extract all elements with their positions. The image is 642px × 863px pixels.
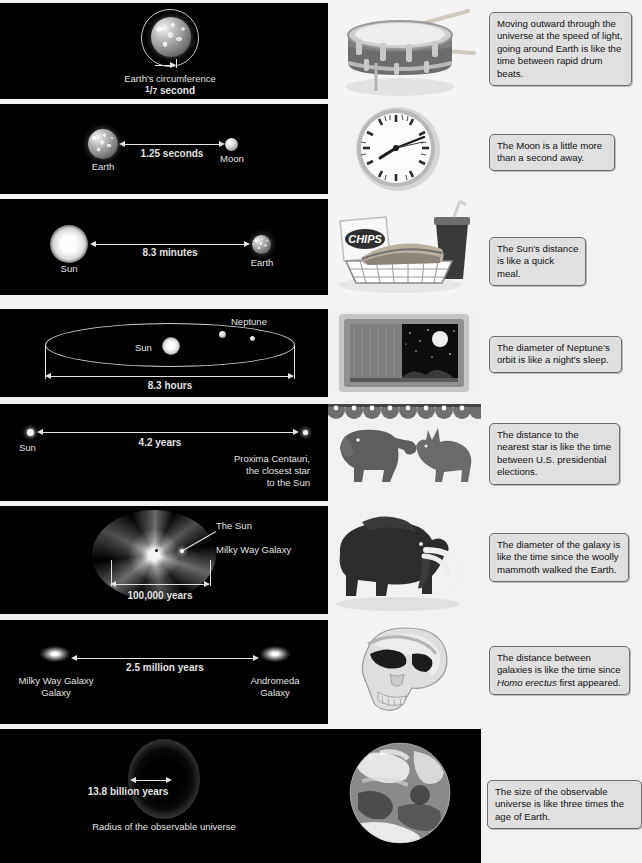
galaxy-diameter-arrow-head-left (110, 581, 116, 587)
row-milky-way-diameter: The Sun Milky Way Galaxy 100,000 years T… (0, 506, 642, 614)
universe-radius-measure: 13.8 billion years (58, 786, 198, 797)
woolly-mammoth-photo (328, 506, 481, 614)
caption-milky-way-diameter: The diameter of the galaxy is like the t… (489, 533, 629, 582)
earth-moon-arrow-line (124, 144, 220, 145)
galaxies-arrow-head-right (253, 655, 259, 661)
row-sun-to-proxima: 4.2 years Sun Proxima Centauri, the clos… (0, 404, 642, 501)
the-sun-label: The Sun (216, 520, 252, 531)
caption-col-8: The size of the observable universe is l… (481, 729, 642, 863)
elephant-and-donkey-photo (328, 404, 481, 501)
moon-sphere-icon (225, 138, 238, 151)
sun-star-icon (27, 429, 34, 436)
caption-neptune-orbit: The diameter of Neptune's orbit is like … (489, 336, 622, 373)
earth-from-space-photo (328, 729, 481, 863)
neptune-sphere-icon (219, 331, 226, 338)
earth-moon-arrow-head-right (219, 141, 225, 147)
milky-way-galaxy-label: Milky Way Galaxy (216, 544, 291, 555)
galactic-center-dot (155, 549, 158, 552)
sun-earth-measure: 8.3 minutes (120, 247, 220, 258)
andromeda-label-line1: Andromeda (237, 675, 313, 686)
caption-col-3: The Sun's distance is like a quick meal. (481, 199, 642, 295)
homo-erectus-skull-photo (328, 620, 481, 724)
photo-quick-meal: CHIPS (328, 199, 481, 295)
neptune-orbit-arrow-head-left (45, 373, 51, 379)
galaxies-arrow-head-left (71, 655, 77, 661)
photo-woolly-mammoth (328, 506, 481, 614)
earth-circumference-measure: 1/7 second (98, 85, 242, 96)
caption-earth-to-moon: The Moon is a little more than a second … (489, 134, 615, 171)
sun-earth-arrow-line (95, 244, 245, 245)
universe-radius-arrow-head-left (130, 777, 136, 783)
diagram-panel-sun-to-proxima: 4.2 years Sun Proxima Centauri, the clos… (0, 404, 328, 501)
sun-label: Sun (135, 342, 152, 353)
earth-sphere-icon (252, 235, 271, 254)
galaxies-measure: 2.5 million years (115, 662, 215, 673)
television-night-scene-photo (328, 309, 481, 397)
diagram-panel-earth-to-moon: 1.25 seconds Earth Moon (0, 104, 328, 194)
caption-sun-to-proxima: The distance to the nearest star is like… (489, 423, 620, 485)
diagram-panel-neptune-orbit: Sun Neptune 8.3 hours (0, 309, 328, 397)
earth-label: Earth (78, 161, 128, 172)
photo-homo-erectus-skull (328, 620, 481, 724)
earth-circumference-label: Earth's circumference (98, 73, 242, 84)
sun-label-text: Sun (135, 342, 152, 353)
galaxy-diameter-arrow-line (113, 584, 209, 585)
earth-label: Earth (237, 257, 287, 268)
caption-col-6: The diameter of the galaxy is like the t… (481, 506, 642, 614)
earth-sphere-icon (88, 129, 118, 159)
cosmic-scale-infographic: Earth's circumference 1/7 second (0, 0, 642, 863)
caption-col-2: The Moon is a little more than a second … (481, 104, 642, 194)
caption-milky-way-to-andromeda: The distance between galaxies is like th… (489, 646, 630, 695)
andromeda-galaxy-icon (260, 646, 290, 662)
proxima-centauri-label-line2: the closest star (188, 465, 310, 476)
wall-clock-photo (328, 104, 481, 194)
neptune-orbit-measure: 8.3 hours (120, 380, 220, 391)
row-milky-way-to-andromeda: 2.5 million years Milky Way Galaxy Galax… (0, 620, 642, 724)
proxima-centauri-label-line3: to the Sun (188, 477, 310, 488)
photo-earth-from-space (328, 729, 481, 863)
row-earth-to-moon: 1.25 seconds Earth Moon (0, 104, 642, 194)
caption-sun-to-earth: The Sun's distance is like a quick meal. (489, 237, 586, 286)
diagram-panel-observable-universe: 13.8 billion years Radius of the observa… (0, 729, 328, 863)
observable-universe-label: Radius of the observable universe (74, 821, 254, 832)
moon-label: Moon (207, 153, 257, 164)
snare-drum-with-drumsticks-photo (328, 3, 481, 99)
measure-denominator: 7 (152, 86, 157, 96)
diagram-panel-sun-to-earth: 8.3 minutes Sun Earth (0, 199, 328, 295)
milky-way-label-line2: Galaxy (18, 687, 94, 698)
universe-radius-arrow-head-right (166, 777, 172, 783)
neptune-marker-icon (250, 336, 255, 341)
sun-proxima-arrow-head-right (293, 429, 299, 435)
milky-way-galaxy-icon (40, 646, 70, 662)
svg-text:CHIPS: CHIPS (348, 233, 382, 245)
caption-col-4: The diameter of Neptune's orbit is like … (481, 309, 642, 397)
neptune-orbit-arrow-head-right (288, 373, 294, 379)
caption-text-after: first appeared. (557, 677, 621, 688)
sun-label: Sun (19, 442, 36, 453)
diagram-panel-milky-way-diameter: The Sun Milky Way Galaxy 100,000 years (0, 506, 328, 614)
sun-proxima-arrow-line (42, 432, 295, 433)
earth-sphere-icon (151, 17, 191, 57)
caption-col-7: The distance between galaxies is like th… (481, 620, 642, 724)
proxima-centauri-label-line1: Proxima Centauri, (188, 453, 310, 464)
andromeda-label-line2: Galaxy (237, 687, 313, 698)
galaxies-arrow-line (76, 658, 254, 659)
orbit-right-tick (294, 345, 295, 379)
sun-proxima-arrow-head-left (37, 429, 43, 435)
photo-snare-drum (328, 3, 481, 99)
sun-sphere-icon (50, 225, 88, 263)
row-earth-circumference: Earth's circumference 1/7 second (0, 3, 642, 99)
galaxy-diameter-measure: 100,000 years (110, 590, 210, 601)
galaxy-right-tick (210, 560, 211, 586)
observable-universe-sphere-icon (128, 739, 200, 819)
universe-radius-arrow-line (133, 780, 170, 781)
caption-observable-universe: The size of the observable universe is l… (487, 780, 642, 829)
milky-way-label-line1: Milky Way Galaxy (18, 675, 94, 686)
earth-moon-arrow-head-left (119, 141, 125, 147)
caption-earth-circumference: Moving outward through the universe at t… (489, 12, 632, 86)
caption-text-italic: Homo erectus (497, 677, 557, 688)
sun-earth-arrow-head-left (90, 241, 96, 247)
circumference-arrow-line (155, 65, 171, 66)
diagram-panel-milky-way-to-andromeda: 2.5 million years Milky Way Galaxy Galax… (0, 620, 328, 724)
row-observable-universe: 13.8 billion years Radius of the observa… (0, 729, 642, 863)
